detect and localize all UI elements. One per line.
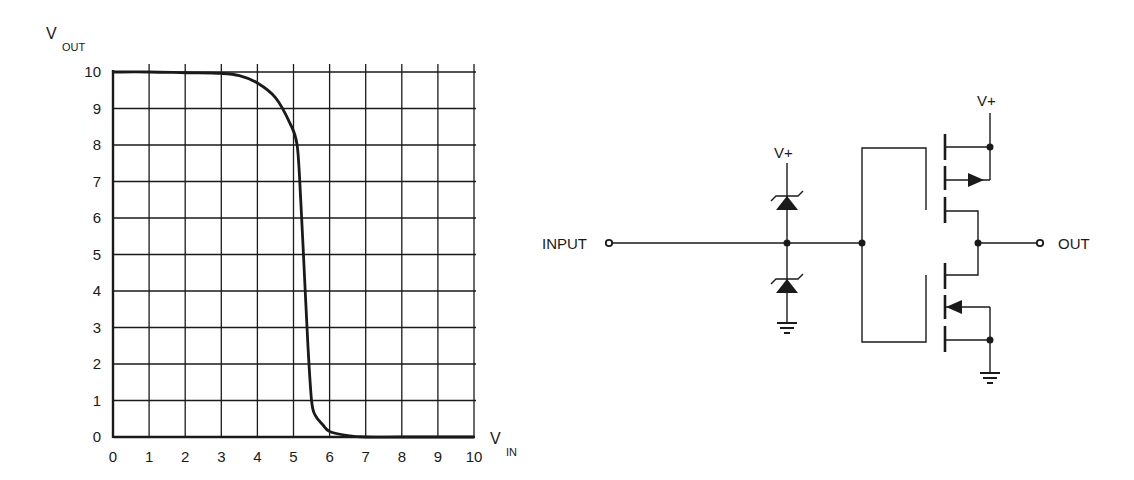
nmos-arrow-icon	[946, 300, 962, 314]
output-terminal	[1037, 240, 1043, 246]
chart-grid	[113, 64, 476, 437]
y-tick-label: 0	[93, 428, 101, 445]
x-tick-label: 3	[217, 448, 225, 465]
y-tick-label: 1	[93, 392, 101, 409]
x-axis-label-subscript: IN	[506, 446, 517, 458]
cmos-inverter-circuit: INPUT V+	[542, 92, 1090, 383]
y-tick-label: 5	[93, 246, 101, 263]
mosfet-supply-label: V+	[977, 92, 996, 109]
x-tick-label: 8	[398, 448, 406, 465]
y-tick-label: 10	[84, 63, 101, 80]
x-tick-labels: 012345678910	[109, 448, 483, 465]
mosfet-ground-icon	[980, 373, 1000, 383]
gate-bus	[862, 148, 926, 342]
y-tick-label: 6	[93, 209, 101, 226]
output-label: OUT	[1058, 235, 1090, 252]
y-tick-label: 3	[93, 319, 101, 336]
input-label: INPUT	[542, 235, 587, 252]
x-tick-label: 6	[325, 448, 333, 465]
x-tick-label: 7	[362, 448, 370, 465]
x-tick-label: 2	[181, 448, 189, 465]
x-tick-label: 4	[253, 448, 261, 465]
y-tick-label: 4	[93, 282, 101, 299]
transfer-chart: 012345678910 012345678910 V OUT V IN	[46, 25, 517, 465]
x-tick-label: 9	[434, 448, 442, 465]
x-tick-label: 0	[109, 448, 117, 465]
pmos-transistor	[946, 113, 994, 275]
y-tick-label: 8	[93, 136, 101, 153]
y-tick-label: 9	[93, 100, 101, 117]
x-tick-label: 5	[289, 448, 297, 465]
nmos-transistor	[946, 300, 994, 372]
figure: 012345678910 012345678910 V OUT V IN INP…	[0, 0, 1134, 480]
y-axis-label: V	[46, 25, 57, 42]
y-axis-label-subscript: OUT	[62, 41, 86, 53]
y-tick-label: 2	[93, 355, 101, 372]
input-terminal	[606, 240, 612, 246]
y-tick-labels: 012345678910	[84, 63, 101, 445]
diode-ground-icon	[777, 323, 797, 333]
pmos-arrow-icon	[968, 173, 984, 187]
x-tick-label: 1	[145, 448, 153, 465]
diode-supply-label: V+	[774, 144, 793, 161]
x-axis-label: V	[490, 430, 501, 447]
x-tick-label: 10	[466, 448, 483, 465]
junction-dot	[784, 240, 791, 247]
y-tick-label: 7	[93, 173, 101, 190]
